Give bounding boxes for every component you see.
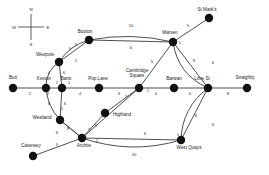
edge-archite-highland bbox=[82, 113, 105, 138]
node-label-straightly: Straightly bbox=[235, 75, 255, 80]
node-label-westquays: West Quays bbox=[177, 145, 203, 150]
compass-label-south: S bbox=[30, 42, 33, 47]
edge-weight-booton-marven: 6 bbox=[130, 45, 133, 50]
edge-weight-marven-limest: 6 bbox=[212, 60, 215, 65]
edge-weight-marven-limest: 8 bbox=[193, 58, 196, 63]
node-label-cambridge: CambridgeSquare bbox=[126, 68, 149, 78]
network-diagram-canvas: 2465106556854446868865756106872111111111… bbox=[0, 0, 269, 175]
node-barwan[interactable] bbox=[170, 84, 178, 92]
edge-weight-buti-kexton: 2 bbox=[29, 91, 32, 96]
edge-weight-archite-westquays: 6 bbox=[144, 131, 147, 136]
edge-weight-extra-0: 2 bbox=[47, 91, 50, 96]
node-straightly[interactable] bbox=[243, 84, 251, 92]
edge-weight-barwan-limest: 6 bbox=[189, 91, 192, 96]
node-layer bbox=[9, 14, 251, 160]
node-label-stmarks: St Mark's bbox=[198, 7, 218, 12]
edge-weight-cambridge-barwan: 4 bbox=[155, 91, 158, 96]
node-label-weopole: Weopole bbox=[36, 52, 54, 57]
edge-booton-marven bbox=[89, 40, 173, 42]
edge-weight-barts-westland: 6 bbox=[64, 101, 67, 106]
node-barts[interactable] bbox=[58, 84, 66, 92]
node-poplane[interactable] bbox=[95, 84, 103, 92]
node-label-poplane: Pop Lane bbox=[88, 76, 108, 81]
edge-weight-barts-weopole: 6 bbox=[63, 70, 66, 75]
node-label-limest: Lime St bbox=[194, 76, 210, 81]
compass-label-west: W bbox=[12, 25, 17, 30]
node-label-archite: Archite bbox=[77, 143, 92, 148]
edge-weight-extra-4: 1 bbox=[147, 88, 150, 93]
node-label-highland: Highland bbox=[113, 112, 132, 117]
edge-weight-booton-marven: 10 bbox=[129, 23, 134, 28]
edge-weight-extra-9: 1 bbox=[61, 106, 64, 111]
edge-marven-limest bbox=[173, 42, 208, 88]
node-stmarks[interactable] bbox=[205, 14, 213, 22]
edge-weight-westquays-limest: 8 bbox=[195, 113, 198, 118]
edge-weight-extra-3: 1 bbox=[75, 58, 78, 63]
edge-marven-cambridge bbox=[139, 42, 173, 88]
node-archite[interactable] bbox=[78, 134, 86, 142]
node-booton[interactable] bbox=[85, 36, 93, 44]
node-label-marven: Marven bbox=[162, 30, 178, 35]
node-label-barts: Barts bbox=[61, 76, 72, 81]
edge-weight-westland-archite: 8 bbox=[67, 126, 70, 131]
node-highland[interactable] bbox=[101, 109, 109, 117]
node-marven[interactable] bbox=[169, 38, 177, 46]
edge-marven-stmarks bbox=[173, 18, 209, 42]
edge-weight-extra-1: 1 bbox=[56, 80, 59, 85]
edge-weight-marven-stmarks: 5 bbox=[187, 23, 190, 28]
edge-weight-poplane-cambridge: 4 bbox=[118, 91, 121, 96]
node-cambridge[interactable] bbox=[135, 84, 143, 92]
edge-weight-barts-poplane: 4 bbox=[79, 91, 82, 96]
node-label-kexton: Kexton bbox=[37, 76, 52, 81]
node-buti[interactable] bbox=[9, 84, 17, 92]
edge-weight-westland-archite: 6 bbox=[56, 130, 59, 135]
node-label-barwan: Barwan bbox=[166, 76, 182, 81]
node-westland[interactable] bbox=[56, 116, 64, 124]
node-weopole[interactable] bbox=[55, 58, 63, 66]
edge-weight-archite-westquays: 10 bbox=[132, 152, 137, 157]
edge-weight-westquays-limest: 6 bbox=[212, 122, 215, 127]
edge-barts-westland bbox=[60, 88, 62, 120]
node-catensey[interactable] bbox=[29, 152, 37, 160]
edge-westland-archite bbox=[60, 120, 82, 138]
node-label-buti: Buti bbox=[9, 75, 17, 80]
edge-weight-extra-8: 1 bbox=[179, 40, 182, 45]
compass-label-north: N bbox=[29, 7, 32, 12]
compass-rose: NSWE bbox=[12, 7, 50, 47]
edge-highland-cambridge bbox=[105, 88, 139, 113]
node-westquays[interactable] bbox=[177, 136, 185, 144]
node-label-booton: Booton bbox=[78, 29, 93, 34]
node-label-catensey: Catensey bbox=[21, 143, 41, 148]
edge-weight-archite-highland: 5 bbox=[95, 123, 98, 128]
node-label-westland: Westland bbox=[32, 115, 52, 120]
edge-weight-limest-straightly: 8 bbox=[227, 91, 230, 96]
edge-weight-marven-cambridge: 5 bbox=[151, 59, 154, 64]
network-diagram-svg: 2465106556854446868865756106872111111111… bbox=[0, 0, 269, 175]
compass-label-east: E bbox=[47, 25, 50, 30]
